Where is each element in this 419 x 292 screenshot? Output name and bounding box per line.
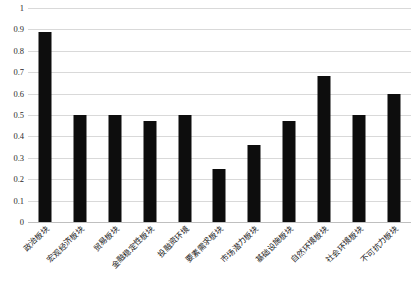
bar-slot: [202, 8, 237, 222]
bar-slot: [307, 8, 342, 222]
bar-slot: [272, 8, 307, 222]
bar-chart: 10.90.80.70.60.50.40.30.20.10 政治板块宏观经济板块…: [0, 0, 419, 292]
bar: [39, 32, 52, 222]
y-axis-tick-label: 0.5: [13, 111, 24, 120]
bar: [143, 121, 156, 222]
y-axis-tick-label: 1: [20, 4, 24, 13]
bar: [74, 115, 87, 222]
x-axis-tick-label: 政治板块: [23, 225, 52, 254]
bar: [283, 121, 296, 222]
x-label-slot: 不可抗力板块: [376, 222, 411, 292]
y-axis-tick-label: 0.7: [13, 68, 24, 77]
bar-slot: [132, 8, 167, 222]
y-axis-tick-label: 0.8: [13, 47, 24, 56]
bar-slot: [376, 8, 411, 222]
bar: [109, 115, 122, 222]
bar: [352, 115, 365, 222]
y-axis-tick-label: 0.2: [13, 175, 24, 184]
y-axis-tick-labels: 10.90.80.70.60.50.40.30.20.10: [0, 0, 28, 230]
y-axis-tick-label: 0.1: [13, 196, 24, 205]
bar-slot: [341, 8, 376, 222]
bar: [317, 76, 330, 222]
bar: [213, 169, 226, 223]
y-axis-tick-label: 0.4: [13, 132, 24, 141]
bar-slot: [98, 8, 133, 222]
bars-layer: [28, 8, 411, 222]
bar-slot: [28, 8, 63, 222]
y-axis-tick-label: 0.9: [13, 25, 24, 34]
x-label-slot: 宏观经济板块: [63, 222, 98, 292]
bar: [178, 115, 191, 222]
bar-slot: [167, 8, 202, 222]
y-axis-tick-label: 0: [20, 218, 24, 227]
bar: [387, 94, 400, 222]
bar-slot: [237, 8, 272, 222]
bar: [248, 145, 261, 222]
x-axis-tick-label: 贸易板块: [92, 225, 121, 254]
x-axis-tick-labels: 政治板块宏观经济板块贸易板块金融稳定性板块投融资环境要素需求板块市场潜力板块基础…: [28, 222, 411, 292]
y-axis-tick-label: 0.3: [13, 154, 24, 163]
y-axis-tick-label: 0.6: [13, 89, 24, 98]
bar-slot: [63, 8, 98, 222]
